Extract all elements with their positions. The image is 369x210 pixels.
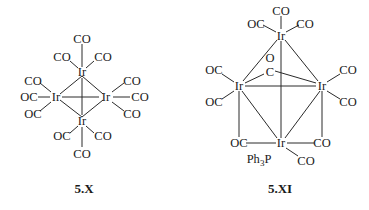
- bridging-carbon: C: [266, 65, 274, 79]
- structure-5x: CO CO CO Ir CO OC OC Ir CO CO CO Ir Ir O…: [20, 32, 148, 196]
- ligand-oc: OC: [247, 17, 264, 31]
- triphenylphosphine-ligand: Ph3P: [247, 152, 272, 168]
- ligand-oc: OC: [205, 95, 222, 109]
- structure-caption: 5.XI: [268, 181, 292, 196]
- ligand-co: CO: [53, 50, 70, 64]
- iridium-atom-right: Ir: [318, 79, 327, 93]
- ligand-co: CO: [339, 95, 356, 109]
- ligand-co: CO: [123, 107, 140, 121]
- ligand-oc: OC: [20, 90, 37, 104]
- ligand-co: CO: [131, 90, 148, 104]
- iridium-atom-bottom: Ir: [277, 136, 286, 150]
- ligand-co: CO: [339, 63, 356, 77]
- ligand-co: CO: [297, 154, 314, 168]
- structure-caption: 5.X: [74, 181, 94, 196]
- ligand-co: CO: [73, 147, 90, 161]
- iridium-atom-top: Ir: [78, 65, 87, 79]
- ligand-oc: OC: [205, 63, 222, 77]
- ligand-co: CO: [24, 74, 41, 88]
- ligand-co: CO: [123, 74, 140, 88]
- cluster-diagram: CO CO CO Ir CO OC OC Ir CO CO CO Ir Ir O…: [0, 0, 369, 210]
- ligand-co: CO: [272, 4, 289, 18]
- iridium-atom-left: Ir: [235, 79, 244, 93]
- bridging-oc: OC: [230, 136, 247, 150]
- ligand-co: CO: [94, 50, 111, 64]
- ligand-co: CO: [94, 129, 111, 143]
- ligand-oc: OC: [24, 107, 41, 121]
- ligand-oc: OC: [53, 129, 70, 143]
- iridium-atom-right: Ir: [102, 90, 111, 104]
- iridium-atom-left: Ir: [52, 90, 61, 104]
- ligand-co: CO: [73, 32, 90, 46]
- iridium-atom-bottom: Ir: [78, 114, 87, 128]
- ligand-co: CO: [296, 17, 313, 31]
- structure-5xi: CO OC CO Ir O C OC OC Ir CO CO Ir OC Ir …: [205, 4, 356, 196]
- bridging-oxygen: O: [265, 51, 274, 65]
- bridging-co: CO: [313, 136, 330, 150]
- iridium-atom-top: Ir: [277, 29, 286, 43]
